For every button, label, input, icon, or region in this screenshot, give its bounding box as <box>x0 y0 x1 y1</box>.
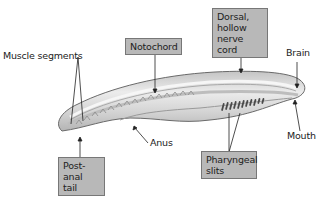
label-anus: Anus <box>150 137 173 148</box>
dorsal-line-1: Dorsal, <box>217 11 263 22</box>
label-pharyngeal-slits: Pharyngeal slits <box>201 151 257 179</box>
lancelet-illustration <box>0 0 324 200</box>
dorsal-line-3: nerve cord <box>217 33 263 55</box>
body-outline <box>59 71 305 131</box>
pharyngeal-line-1: Pharyngeal <box>206 154 252 165</box>
label-dorsal-hollow-nerve-cord: Dorsal, hollow nerve cord <box>212 8 268 58</box>
pharyngeal-line-2: slits <box>206 165 252 176</box>
post-anal-line-1: Post-anal <box>63 160 100 182</box>
post-anal-line-2: tail <box>63 182 100 193</box>
label-post-anal-tail: Post-anal tail <box>58 157 105 196</box>
label-muscle-segments: Muscle segments <box>3 50 83 61</box>
label-mouth: Mouth <box>287 130 316 141</box>
label-brain: Brain <box>286 47 310 58</box>
notochord-text: Notochord <box>130 41 177 52</box>
dorsal-line-2: hollow <box>217 22 263 33</box>
label-notochord: Notochord <box>125 38 182 55</box>
